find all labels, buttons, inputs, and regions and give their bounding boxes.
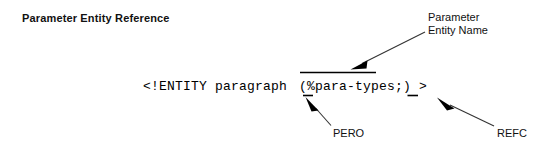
parameter-entity-reference-figure: Parameter Entity Reference <!ENTITY para… — [0, 0, 547, 151]
arrowhead-pero — [306, 97, 319, 112]
annotation-label-pero: PERO — [333, 127, 364, 140]
code-entity-declaration: <!ENTITY paragraph — [143, 79, 287, 94]
annotation-label-parameter-entity-name: Parameter Entity Name — [428, 11, 488, 37]
page-title: Parameter Entity Reference — [22, 12, 170, 24]
arrowhead-entity-name — [351, 61, 368, 70]
leader-line-entity-name — [362, 32, 425, 64]
annotation-label-refc: REFC — [497, 127, 527, 140]
code-parameter-entity-reference: (%para-types;) > — [299, 79, 427, 94]
leader-line-refc — [450, 105, 494, 126]
arrowhead-refc — [437, 98, 455, 111]
leader-line-pero — [316, 108, 332, 126]
